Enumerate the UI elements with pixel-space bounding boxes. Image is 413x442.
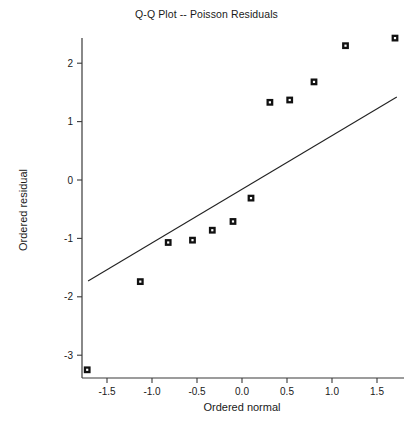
- data-point: [267, 99, 274, 106]
- data-point-center: [269, 101, 271, 103]
- data-point: [392, 35, 399, 42]
- data-point: [230, 218, 237, 225]
- data-point: [342, 42, 349, 49]
- data-point: [84, 366, 91, 373]
- x-tick-labels-group: -1.5-1.0-0.50.00.51.01.5: [98, 386, 384, 397]
- y-tick-label: -2: [64, 291, 73, 302]
- data-points-group: [84, 35, 399, 374]
- data-point: [311, 78, 318, 85]
- qq-reference-line: [88, 97, 397, 281]
- x-tick-label: 1.5: [370, 386, 384, 397]
- data-point: [286, 97, 293, 104]
- plot-canvas: -1.5-1.0-0.50.00.51.01.5 210-1-2-3 Order…: [0, 0, 413, 442]
- data-point-center: [167, 241, 169, 243]
- x-tick-label: 1.0: [325, 386, 339, 397]
- y-tick-label: 1: [67, 116, 73, 127]
- x-tick-label: -0.5: [188, 386, 206, 397]
- x-tick-label: -1.0: [143, 386, 161, 397]
- data-point-center: [250, 197, 252, 199]
- data-point-center: [139, 281, 141, 283]
- data-point-center: [313, 81, 315, 83]
- y-tick-label: -1: [64, 233, 73, 244]
- data-point: [189, 237, 196, 244]
- x-axis-title: Ordered normal: [203, 401, 280, 413]
- y-axis-title: Ordered residual: [17, 169, 29, 251]
- data-point: [137, 278, 144, 285]
- x-tick-label: -1.5: [98, 386, 116, 397]
- data-point-center: [86, 369, 88, 371]
- data-point-center: [232, 220, 234, 222]
- data-point-center: [211, 229, 213, 231]
- data-point: [165, 239, 172, 246]
- data-point-center: [289, 99, 291, 101]
- reference-line-group: [88, 97, 397, 281]
- data-point: [248, 195, 255, 202]
- data-point-center: [344, 45, 346, 47]
- y-tick-label: 0: [67, 175, 73, 186]
- axes-group: [82, 38, 404, 378]
- qq-plot-figure: Q-Q Plot -- Poisson Residuals -1.5-1.0-0…: [0, 0, 413, 442]
- data-point: [209, 227, 216, 234]
- y-tick-labels-group: 210-1-2-3: [64, 58, 73, 361]
- data-point-center: [394, 37, 396, 39]
- data-point-center: [191, 239, 193, 241]
- y-tick-label: 2: [67, 58, 73, 69]
- x-tick-label: 0.0: [235, 386, 249, 397]
- tick-marks-group: [77, 63, 377, 383]
- x-tick-label: 0.5: [280, 386, 294, 397]
- y-tick-label: -3: [64, 350, 73, 361]
